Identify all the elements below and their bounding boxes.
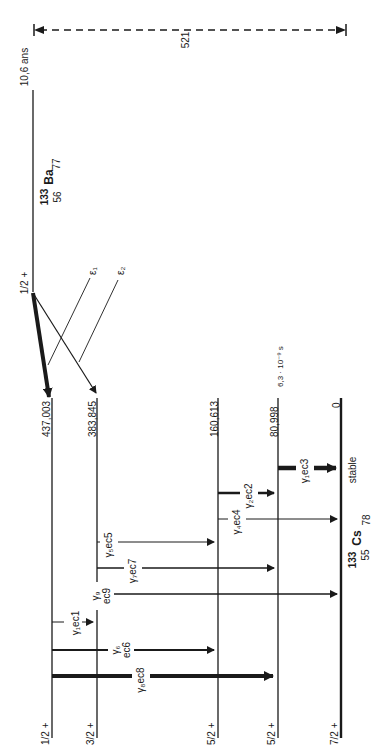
level-half-life-80: 6,3 · 10⁻⁹ s [276, 346, 285, 387]
gamma-transitions [52, 468, 337, 676]
ec-branches [33, 278, 118, 397]
parent-spin: 1/2 + [19, 272, 30, 295]
decay-scheme-diagram: 521 10,6 ans 133 Ba 56 77 1/2 + ε₁ ε₂ 43… [0, 0, 383, 750]
level-energy-437: 437,003 [41, 400, 52, 437]
svg-text:78: 78 [361, 514, 372, 526]
svg-text:Ba: Ba [42, 169, 56, 185]
daughter-nuclide-label: 133 Cs 55 78 [347, 514, 372, 568]
level-spin-80: 5/2 + [266, 722, 277, 745]
transition-g5-label: γ₅ec5 [103, 532, 114, 558]
transition-g9-label-a: γ₉ [90, 591, 101, 600]
ec-branch-eps1-label: ε₁ [87, 267, 98, 275]
level-spin-0: 7/2 + [329, 722, 340, 745]
level-spin-160: 5/2 + [206, 722, 217, 745]
transition-g4-label: γ₄ec4 [231, 509, 242, 535]
level-spin-437: 1/2 + [40, 722, 51, 745]
transition-g8-label: γ₈ec8 [135, 667, 146, 693]
svg-text:55: 55 [360, 549, 371, 561]
daughter-stable-label: stable [347, 456, 358, 483]
transition-g6-label-b: ec6 [121, 642, 132, 659]
transition-g1-label: γ₁ec1 [70, 610, 81, 635]
svg-text:Cs: Cs [350, 530, 364, 546]
svg-text:133: 133 [347, 551, 358, 568]
transition-g2-label: γ₂ec2 [243, 483, 254, 508]
parent-nuclide-label: 133 Ba 56 77 [39, 158, 63, 205]
svg-text:133: 133 [39, 188, 50, 205]
transition-g6-label-a: γ₆ [110, 645, 121, 654]
parent-half-life: 10,6 ans [19, 48, 30, 86]
level-spin-383: 3/2 + [85, 722, 96, 745]
ec-branch-eps2-label: ε₂ [115, 267, 126, 275]
svg-text:56: 56 [52, 191, 63, 203]
transition-g7-label: γ₇ec7 [127, 558, 138, 583]
transition-g3-label: γ₁ec3 [299, 458, 310, 483]
svg-text:77: 77 [51, 158, 62, 170]
q-value-label: 521 [180, 31, 191, 48]
transition-g9-label-b: ec9 [101, 588, 112, 605]
